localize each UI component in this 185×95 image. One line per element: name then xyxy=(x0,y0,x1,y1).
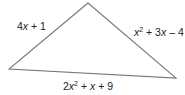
constant-term: + 9 xyxy=(95,80,113,92)
plus-sign: + xyxy=(78,80,90,92)
side-label-bottom: 2x2 + x + 9 xyxy=(63,81,113,92)
linear-coefficient: + 3 xyxy=(143,26,161,38)
side-label-left: 4x + 1 xyxy=(17,21,46,32)
constant-term: + 1 xyxy=(28,20,46,32)
constant-term: – 4 xyxy=(166,26,184,38)
triangle-outline xyxy=(9,3,176,78)
side-label-right: x2 + 3x – 4 xyxy=(134,27,184,38)
